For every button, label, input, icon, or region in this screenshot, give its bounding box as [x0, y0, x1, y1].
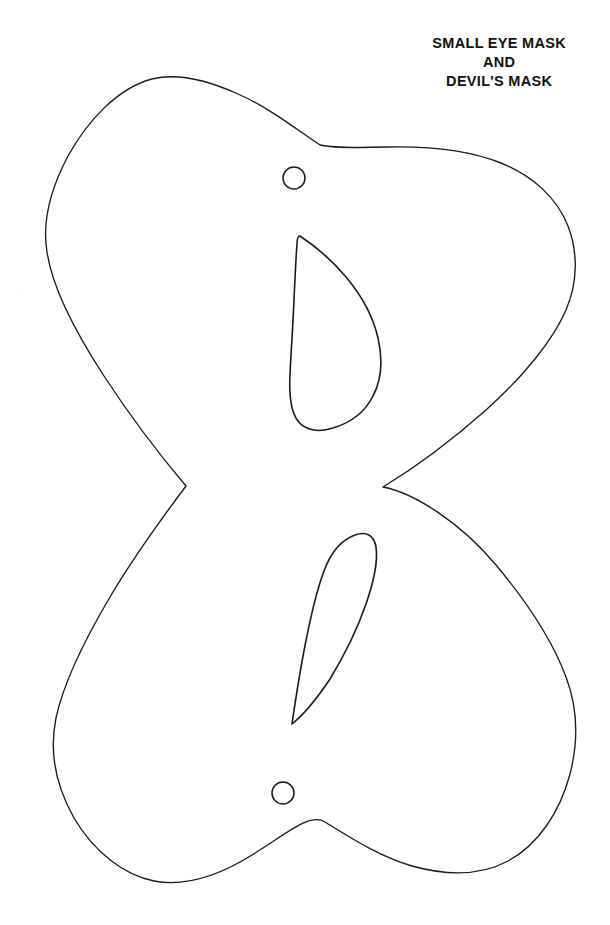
scan-speck	[22, 295, 23, 296]
mask-template-drawing	[0, 0, 610, 925]
mask-body-outline	[46, 77, 576, 883]
lower-eye-hole	[292, 534, 377, 725]
scan-speck	[138, 296, 139, 297]
scan-speck	[140, 676, 141, 677]
title-line-2: AND	[432, 53, 566, 72]
upper-string-hole	[283, 167, 305, 189]
title-line-1: SMALL EYE MASK	[432, 34, 566, 53]
title-line-3: DEVIL'S MASK	[432, 72, 566, 91]
title-block: SMALL EYE MASK AND DEVIL'S MASK	[432, 34, 566, 91]
template-page: SMALL EYE MASK AND DEVIL'S MASK	[0, 0, 610, 925]
scan-speck	[226, 675, 227, 676]
upper-eye-hole	[290, 236, 381, 430]
lower-string-hole	[272, 782, 294, 804]
